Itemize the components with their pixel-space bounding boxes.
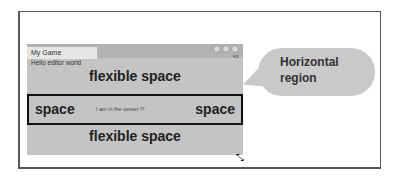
center-label: I am in the center !!!	[96, 106, 145, 112]
callout-line-2: region	[280, 70, 339, 86]
callout-text: Horizontal region	[280, 54, 339, 86]
space-left: space	[35, 101, 75, 117]
menu-icon[interactable]: ▾≡	[233, 53, 239, 59]
hello-label: Hello editor world	[31, 59, 81, 66]
horizontal-region: space I am in the center !!! space	[27, 94, 243, 125]
resize-handle-icon[interactable]: ⤡	[236, 152, 244, 164]
title-bar: My Game ▾≡	[27, 44, 243, 58]
flexible-space-bottom: flexible space	[27, 128, 243, 144]
flexible-space-top: flexible space	[27, 68, 243, 84]
window-buttons-icon[interactable]	[213, 45, 239, 53]
editor-window: My Game ▾≡ Hello editor world flexible s…	[27, 44, 243, 155]
window-tab[interactable]: My Game	[27, 47, 97, 59]
space-right: space	[195, 101, 235, 117]
callout-line-1: Horizontal	[280, 54, 339, 70]
callout-bubble: Horizontal region	[258, 48, 375, 96]
